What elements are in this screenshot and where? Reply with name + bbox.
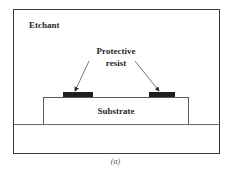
protective-resist-right (149, 92, 175, 97)
protective-resist-label-line2: resist (88, 57, 144, 69)
etchant-label: Etchant (29, 20, 60, 30)
base-layer-divider (14, 124, 219, 125)
etchant-container-frame (13, 9, 220, 154)
figure-caption: (a) (0, 157, 231, 166)
protective-resist-label-line1: Protective (88, 45, 144, 57)
protective-resist-label: Protective resist (88, 45, 144, 69)
protective-resist-left (63, 92, 93, 97)
substrate-label: Substrate (43, 106, 189, 116)
